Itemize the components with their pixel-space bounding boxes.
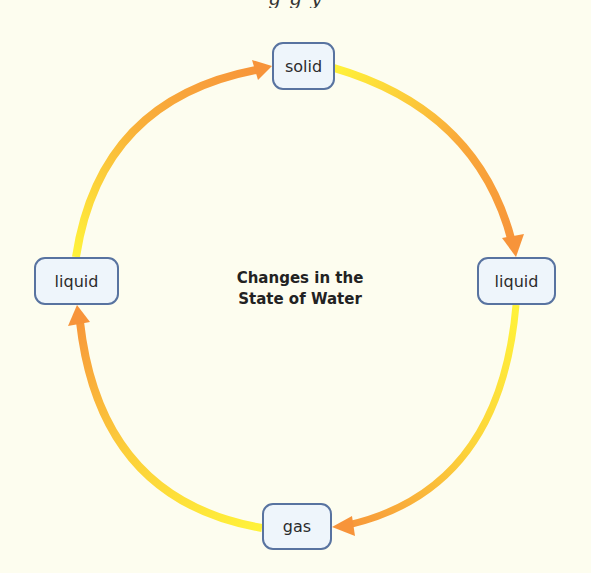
node-label: liquid [495,272,539,291]
arrowhead-solid-to-liquid [502,234,524,257]
arrow-gas-to-liquid [80,322,262,528]
arrow-liquid-to-solid [76,70,256,257]
node-label: liquid [55,272,99,291]
arrow-solid-to-liquid [334,68,512,242]
diagram-title: Changes in the State of Water [222,268,378,310]
arrowhead-liquid-to-gas [332,516,355,536]
node-liquid-right: liquid [477,257,556,305]
arrowhead-gas-to-liquid [68,305,90,326]
diagram-title-line2: State of Water [222,289,378,310]
node-solid: solid [272,42,335,90]
node-label: gas [283,517,311,536]
node-liquid-left: liquid [34,257,119,305]
diagram-title-line1: Changes in the [222,268,378,289]
node-gas: gas [262,503,332,550]
arrowhead-liquid-to-solid [252,60,272,80]
node-label: solid [285,57,322,76]
arrow-liquid-to-gas [348,305,516,525]
